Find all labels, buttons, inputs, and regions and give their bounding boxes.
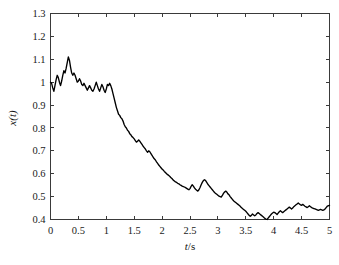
y-tick-label: 0.4 — [32, 214, 46, 225]
x-tick-label: 5 — [327, 225, 332, 236]
data-series-line — [51, 57, 330, 220]
y-tick-label: 1 — [40, 77, 45, 88]
x-tick-label: 2 — [159, 225, 164, 236]
x-tick-label: 3.5 — [239, 225, 252, 236]
y-axis-tick-labels: 0.40.50.60.70.80.911.11.21.3 — [32, 8, 46, 225]
x-tick-label: 3 — [215, 225, 220, 236]
y-tick-label: 0.7 — [32, 145, 45, 156]
y-tick-label: 1.2 — [32, 31, 45, 42]
x-tick-label: 4.5 — [295, 225, 308, 236]
y-tick-label: 1.1 — [32, 54, 45, 65]
line-chart: 00.511.522.533.544.55 0.40.50.60.70.80.9… — [0, 0, 339, 265]
y-tick-label: 0.8 — [32, 123, 45, 134]
x-tick-label: 1 — [104, 225, 109, 236]
x-axis-tick-labels: 00.511.522.533.544.55 — [48, 225, 332, 236]
x-tick-label: 0 — [48, 225, 53, 236]
y-tick-label: 1.3 — [32, 8, 45, 19]
y-axis-title: x(t) — [6, 110, 19, 127]
x-tick-label: 1.5 — [128, 225, 141, 236]
x-tick-label: 2.5 — [183, 225, 196, 236]
y-tick-label: 0.9 — [32, 100, 45, 111]
x-tick-label: 0.5 — [72, 225, 85, 236]
y-tick-label: 0.5 — [32, 191, 45, 202]
chart-figure: 00.511.522.533.544.55 0.40.50.60.70.80.9… — [0, 0, 339, 265]
x-tick-label: 4 — [271, 225, 277, 236]
x-axis-title: t/s — [185, 240, 195, 252]
y-tick-label: 0.6 — [32, 168, 45, 179]
